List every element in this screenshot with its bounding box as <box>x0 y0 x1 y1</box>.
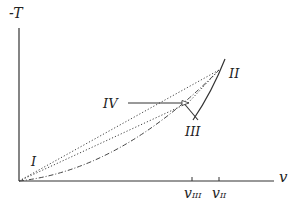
point-label-i: I <box>31 155 36 168</box>
tick-label-v-ii: vII <box>212 186 226 200</box>
point-label-iii: III <box>185 125 200 138</box>
dotted-line-origin-to-iv <box>19 103 188 181</box>
point-label-ii: II <box>229 67 239 80</box>
dotted-line-iv-to-ii <box>188 70 219 103</box>
tick-label-v-iii: vIII <box>184 186 201 200</box>
x-axis-label: v <box>279 170 287 185</box>
point-label-iv: IV <box>103 97 118 110</box>
y-axis-label: -T <box>9 6 23 20</box>
isotherm-curve <box>193 59 225 120</box>
diagram-canvas <box>0 0 304 210</box>
